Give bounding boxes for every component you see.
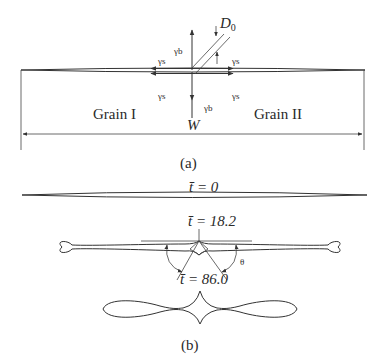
gamma-s-top-right-label: γs	[231, 56, 240, 66]
panel-b: t̄ = 0 t̄ = 18.2 θ t̄ = 86.0 (b)	[22, 179, 367, 354]
angle-arc-right	[222, 245, 236, 272]
gamma-s-top-left-label: γs	[157, 56, 166, 66]
gamma-s-bottom-right-label: γs	[231, 91, 240, 101]
panel-a: D0 γb γs γs γs γs γb Grain I Grain II W …	[21, 15, 365, 172]
t2-label: t̄ = 86.0	[180, 271, 229, 287]
grain-ii-label: Grain II	[254, 106, 302, 122]
gamma-s-bottom-left-label: γs	[157, 91, 166, 101]
groove-line-1	[192, 34, 224, 68]
panel-b-caption: (b)	[181, 337, 199, 354]
film-shape-t1	[60, 241, 340, 255]
theta-label: θ	[240, 257, 244, 267]
gamma-b-top-label: γb	[173, 46, 183, 56]
gamma-b-bottom-label: γb	[203, 103, 213, 113]
grain-i-label: Grain I	[93, 106, 136, 122]
t1-label: t̄ = 18.2	[188, 213, 237, 229]
d0-label: D0	[219, 15, 236, 33]
width-label: W	[187, 117, 201, 133]
grain-boundary-diagram: D0 γb γs γs γs γs γb Grain I Grain II W …	[0, 0, 381, 362]
film-shape-t2	[103, 291, 297, 324]
panel-a-caption: (a)	[180, 155, 197, 172]
t0-label: t̄ = 0	[189, 179, 219, 195]
angle-arc-left	[167, 245, 182, 272]
